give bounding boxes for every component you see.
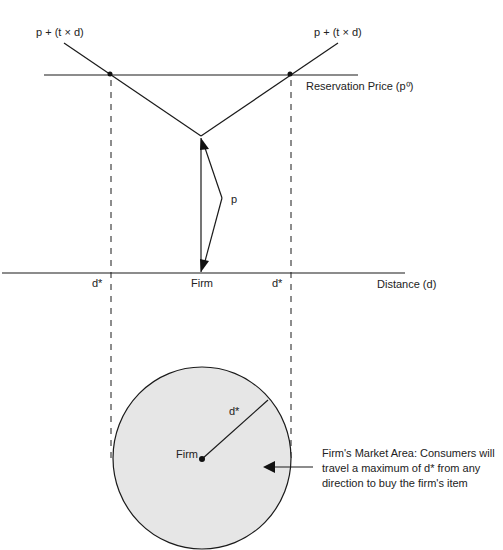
- intersection-dot-left: [108, 72, 113, 77]
- reservation-price-label: Reservation Price (p⁰): [306, 80, 413, 92]
- curve-label-right: p + (t × d): [314, 26, 362, 38]
- firm-center-dot: [199, 456, 205, 462]
- curve-label-left: p + (t × d): [36, 26, 84, 38]
- intersection-dot-right: [288, 72, 293, 77]
- dstar-label-left: d*: [92, 277, 103, 289]
- market-area-diagram: p + (t × d) p + (t × d) Reservation Pric…: [0, 0, 503, 550]
- distance-axis-label: Distance (d): [377, 278, 436, 290]
- firm-axis-label: Firm: [191, 277, 213, 289]
- delivered-price-curve-left: [64, 43, 201, 136]
- market-area-text-line3: direction to buy the firm's item: [322, 477, 468, 489]
- radius-label: d*: [229, 405, 240, 417]
- market-area-text-line1: Firm's Market Area: Consumers will: [322, 447, 495, 459]
- arrowhead-up-icon: [200, 138, 209, 150]
- dstar-label-right: d*: [272, 277, 283, 289]
- arrowhead-down-icon: [200, 259, 209, 272]
- market-area-text-line2: travel a maximum of d* from any: [322, 462, 481, 474]
- firm-center-label: Firm: [176, 448, 198, 460]
- price-p-label: p: [231, 193, 237, 205]
- price-arrow-up: [204, 145, 222, 198]
- price-arrow-down: [204, 198, 222, 265]
